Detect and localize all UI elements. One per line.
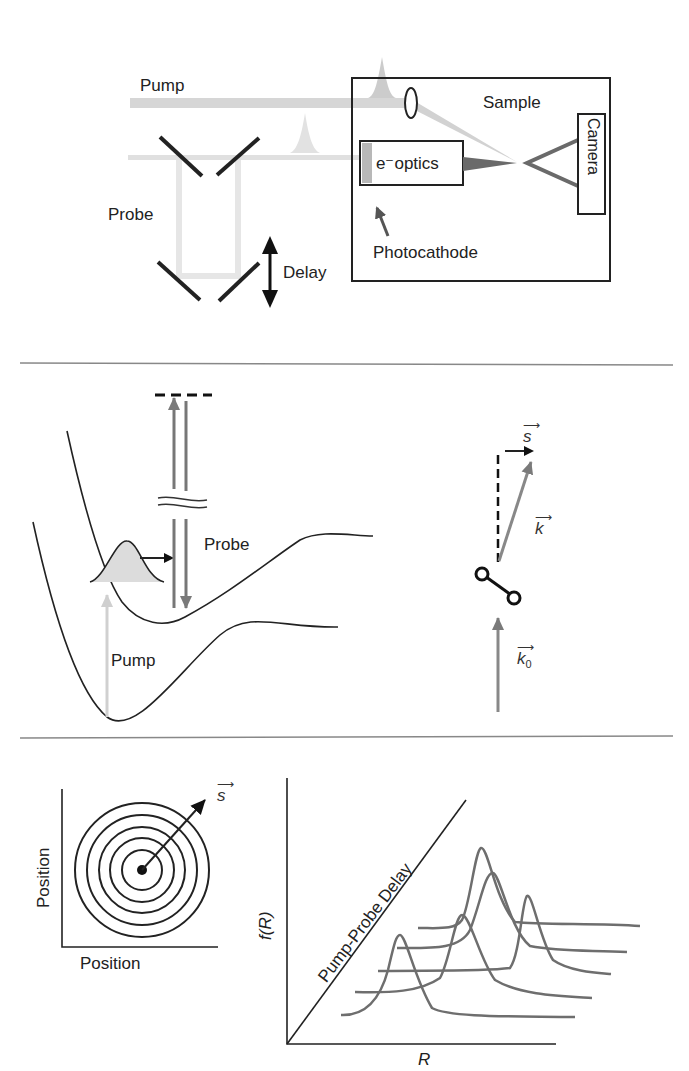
molecule-atom-left	[476, 568, 488, 580]
k0-vector-label: ⟶k0	[517, 650, 532, 670]
diffraction-y-axis-label: Position	[35, 848, 52, 908]
k-vector-arrow	[499, 462, 531, 561]
distribution-curve-5	[418, 848, 640, 928]
diffraction-panel	[62, 778, 640, 1044]
photocathode-arrow-icon	[377, 208, 388, 236]
photocathode-label: Photocathode	[373, 244, 478, 261]
vector-arrow-icon: ⟶	[517, 641, 534, 653]
photocathode-plate	[362, 143, 372, 183]
potential-probe-label: Probe	[204, 536, 249, 553]
diffraction-cone	[527, 140, 578, 186]
diffraction-s-vector-label: ⟶s	[217, 787, 226, 804]
delay-label: Delay	[283, 264, 326, 281]
distribution-x-axis-label: R	[418, 1051, 430, 1068]
potential-panel	[33, 395, 532, 721]
probe-pulse-icon	[290, 113, 320, 153]
distribution-axes	[287, 778, 556, 1044]
sample-label: Sample	[483, 94, 541, 111]
delay-line-right	[235, 160, 241, 278]
lens-icon	[405, 88, 417, 118]
vector-arrow-icon: ⟶	[523, 419, 540, 431]
probe-label: Probe	[108, 206, 153, 223]
pump-label: Pump	[140, 77, 184, 94]
probe-beam	[128, 155, 360, 160]
delay-line-left	[176, 160, 182, 278]
pump-beam	[130, 98, 410, 108]
vector-arrow-icon: ⟶	[535, 511, 552, 523]
distribution-curve-4	[397, 873, 627, 952]
electron-optics-label: e⁻optics	[376, 155, 439, 172]
distribution-y-axis-label: f(R)	[257, 912, 274, 940]
camera-label: Camera	[585, 118, 601, 175]
electron-beam-cone	[463, 157, 517, 171]
delay-line-bottom	[176, 273, 241, 279]
diffraction-x-axis-label: Position	[80, 955, 140, 972]
excited-state-curve	[67, 431, 373, 623]
potential-pump-label: Pump	[111, 652, 155, 669]
s-vector-label: ⟶s	[523, 428, 532, 445]
molecule-atom-right	[508, 592, 520, 604]
vector-arrow-icon: ⟶	[217, 778, 234, 790]
k-vector-label: ⟶k	[535, 520, 544, 537]
divider-2	[20, 736, 673, 738]
axis-break-icon	[158, 497, 207, 501]
divider-1	[20, 363, 673, 365]
